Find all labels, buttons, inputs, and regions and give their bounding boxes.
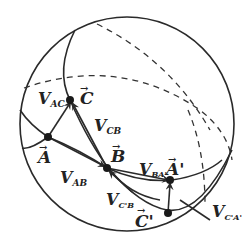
svg-text:→: →: [80, 83, 89, 94]
vector-CpAp: [168, 184, 170, 213]
great-circle-arcs: [20, 30, 232, 220]
svg-text:→: →: [168, 154, 177, 165]
label-V-CB: VCB: [94, 116, 122, 136]
svg-text:→: →: [137, 205, 146, 216]
label-V-CprimeB: VC'B: [106, 190, 134, 210]
point-B: [103, 164, 111, 172]
label-V-CprimeAprime: VC'A': [212, 202, 242, 222]
svg-text:→: →: [39, 142, 48, 153]
sphere-outline: [20, 17, 234, 231]
svg-text:→: →: [112, 141, 121, 152]
sphere-diagram: C → A → B → A' → C' → VAC VCB VAB VBA' V…: [0, 0, 252, 240]
vector-CpB: [110, 172, 132, 192]
point-C: [66, 96, 74, 104]
label-V-AC: VAC: [38, 89, 65, 109]
vector-AB: [48, 137, 104, 166]
label-V-BA-prime: VBA': [139, 160, 167, 179]
vector-labels: VAC VCB VAB VBA' VC'B VC'A': [38, 89, 242, 222]
point-C-prime: [164, 209, 172, 217]
hidden-arcs: [24, 24, 232, 205]
label-V-AB: VAB: [60, 168, 87, 188]
point-A: [44, 133, 52, 141]
